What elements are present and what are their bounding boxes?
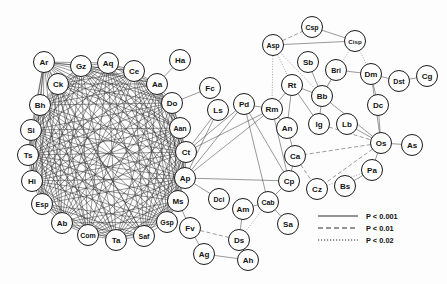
node-Am[interactable]: Am bbox=[233, 199, 254, 220]
edge-Pd-Ap bbox=[192, 112, 238, 170]
node-Esp[interactable]: Esp bbox=[32, 194, 53, 215]
edge-cluster-mesh bbox=[91, 64, 97, 65]
node-Aan[interactable]: Aan bbox=[170, 118, 191, 139]
node-label: Cisp bbox=[348, 38, 362, 45]
node-Sa[interactable]: Sa bbox=[278, 214, 299, 235]
node-Rm[interactable]: Rm bbox=[262, 99, 283, 120]
node-Cp[interactable]: Cp bbox=[279, 171, 300, 192]
node-label: Bs bbox=[340, 182, 351, 191]
node-Aa[interactable]: Aa bbox=[147, 74, 168, 95]
node-label: Pa bbox=[367, 166, 377, 175]
legend: P < 0.001P < 0.01P < 0.02 bbox=[318, 212, 398, 245]
edge-Ca-Cz bbox=[301, 165, 311, 181]
node-Ap[interactable]: Ap bbox=[175, 168, 196, 189]
node-Hi[interactable]: Hi bbox=[22, 171, 43, 192]
edge-cluster-mesh bbox=[98, 237, 105, 238]
node-Os[interactable]: Os bbox=[371, 133, 392, 154]
node-label: Si bbox=[27, 126, 35, 135]
node-Cisp[interactable]: Cisp bbox=[345, 31, 366, 52]
node-Ah[interactable]: Ah bbox=[238, 250, 259, 271]
edge-Rt-Ig bbox=[298, 94, 313, 116]
node-Rt[interactable]: Rt bbox=[282, 75, 303, 96]
node-Ds[interactable]: Ds bbox=[229, 230, 250, 251]
node-Bb[interactable]: Bb bbox=[312, 86, 333, 107]
node-label: Ta bbox=[112, 236, 121, 245]
node-Ag[interactable]: Ag bbox=[194, 244, 215, 265]
node-Pa[interactable]: Pa bbox=[362, 160, 383, 181]
node-Ls[interactable]: Ls bbox=[208, 100, 229, 121]
edge-Pd-Rm bbox=[254, 106, 261, 107]
edge-Cp-Cab bbox=[275, 188, 281, 194]
node-Fc[interactable]: Fc bbox=[200, 78, 221, 99]
node-label: Dci bbox=[214, 196, 225, 203]
node-label: Saf bbox=[139, 233, 151, 240]
edge-Cp-Ap bbox=[196, 178, 279, 180]
node-As[interactable]: As bbox=[402, 135, 423, 156]
node-Sb[interactable]: Sb bbox=[298, 52, 319, 73]
node-Ab[interactable]: Ab bbox=[52, 213, 73, 234]
node-Ta[interactable]: Ta bbox=[106, 230, 127, 251]
node-Dst[interactable]: Dst bbox=[389, 71, 410, 92]
edge-Rt-Bb bbox=[302, 89, 312, 93]
node-Do[interactable]: Do bbox=[162, 93, 183, 114]
edge-Ha-Aa bbox=[164, 68, 172, 77]
edge-Bri-Bb bbox=[327, 79, 331, 87]
node-Gz[interactable]: Gz bbox=[71, 56, 92, 77]
node-Saf[interactable]: Saf bbox=[134, 226, 155, 247]
node-Asp[interactable]: Asp bbox=[263, 35, 284, 56]
node-Bri[interactable]: Bri bbox=[326, 60, 347, 81]
node-Csp[interactable]: Csp bbox=[302, 17, 323, 38]
node-Cab[interactable]: Cab bbox=[258, 192, 279, 213]
node-Si[interactable]: Si bbox=[21, 120, 42, 141]
node-label: Cz bbox=[312, 185, 322, 194]
node-label: Ck bbox=[53, 80, 64, 89]
node-Fv[interactable]: Fv bbox=[180, 218, 201, 239]
node-Cz[interactable]: Cz bbox=[307, 179, 328, 200]
node-Cg[interactable]: Cg bbox=[417, 66, 438, 87]
node-Lb[interactable]: Lb bbox=[337, 114, 358, 135]
node-label: Cab bbox=[261, 199, 274, 206]
node-label: Os bbox=[376, 139, 387, 148]
edge-cluster-mesh bbox=[36, 191, 38, 195]
node-Ts[interactable]: Ts bbox=[18, 145, 39, 166]
node-Ha[interactable]: Ha bbox=[170, 50, 191, 71]
node-An[interactable]: An bbox=[277, 118, 298, 139]
node-Aq[interactable]: Aq bbox=[98, 53, 119, 74]
edge-Cab-Am bbox=[253, 205, 258, 206]
node-label: Ct bbox=[182, 148, 191, 157]
node-label: Csp bbox=[305, 24, 318, 32]
edge-cluster-mesh bbox=[37, 138, 109, 231]
node-label: Lb bbox=[342, 120, 352, 129]
node-label: Cp bbox=[284, 177, 295, 186]
node-Dm[interactable]: Dm bbox=[361, 64, 382, 85]
node-label: Ap bbox=[180, 174, 191, 183]
node-Bh[interactable]: Bh bbox=[30, 95, 51, 116]
edge-Dci-Ap bbox=[194, 184, 210, 194]
node-label: Aq bbox=[103, 59, 114, 68]
node-label: Ts bbox=[24, 151, 33, 160]
legend-label-solid: P < 0.001 bbox=[366, 212, 398, 221]
edge-cluster-mesh bbox=[126, 237, 133, 238]
node-Ig[interactable]: Ig bbox=[309, 114, 330, 135]
node-Pd[interactable]: Pd bbox=[234, 94, 255, 115]
node-Bs[interactable]: Bs bbox=[335, 176, 356, 197]
edge-Dst-Cg bbox=[409, 78, 416, 79]
edge-Fv-Ag bbox=[195, 237, 199, 245]
node-label: As bbox=[407, 141, 418, 150]
node-Com[interactable]: Com bbox=[78, 225, 99, 246]
node-Ct[interactable]: Ct bbox=[176, 142, 197, 163]
node-Ms[interactable]: Ms bbox=[168, 191, 189, 212]
node-Ck[interactable]: Ck bbox=[48, 74, 69, 95]
node-Gsp[interactable]: Gsp bbox=[157, 212, 178, 233]
edge-Am-Ds bbox=[240, 219, 241, 229]
node-Ar[interactable]: Ar bbox=[34, 52, 55, 73]
node-Dci[interactable]: Dci bbox=[209, 189, 230, 210]
node-label: Dc bbox=[373, 101, 384, 110]
edge-Dm-Dst bbox=[381, 77, 389, 79]
node-label: Hi bbox=[28, 177, 36, 186]
node-Ca[interactable]: Ca bbox=[285, 146, 306, 167]
node-Ce[interactable]: Ce bbox=[124, 61, 145, 82]
node-label: Bh bbox=[35, 101, 46, 110]
node-Dc[interactable]: Dc bbox=[368, 95, 389, 116]
node-label: Esp bbox=[36, 201, 49, 209]
